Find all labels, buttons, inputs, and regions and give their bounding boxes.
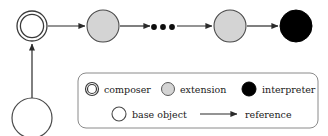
legend-label-composer: composer xyxy=(104,84,151,95)
base-object-swatch-icon xyxy=(112,107,126,121)
extension-swatch-icon xyxy=(162,83,175,96)
legend-label-reference: reference xyxy=(245,109,292,120)
legend-label-extension: extension xyxy=(180,84,226,95)
interpreter-swatch-icon xyxy=(242,82,256,96)
composer-node xyxy=(17,11,47,41)
legend-label-interpreter: interpreter xyxy=(262,84,316,95)
base-object-node xyxy=(12,98,52,136)
legend-extension: extension xyxy=(162,83,227,96)
ellipsis-dots xyxy=(151,24,175,30)
diagram-canvas: composer extension interpreter base obje… xyxy=(0,0,328,136)
interpreter-node xyxy=(280,10,312,42)
composer-swatch-inner-icon xyxy=(88,85,97,94)
extension-node-2 xyxy=(214,10,246,42)
legend-label-base-object: base object xyxy=(132,109,187,120)
legend-interpreter: interpreter xyxy=(242,82,316,96)
extension-node-1 xyxy=(87,10,119,42)
legend-composer: composer xyxy=(86,83,152,96)
legend-base-object: base object xyxy=(112,107,187,121)
legend-box xyxy=(78,73,318,128)
diagram-svg: composer extension interpreter base obje… xyxy=(0,0,328,136)
